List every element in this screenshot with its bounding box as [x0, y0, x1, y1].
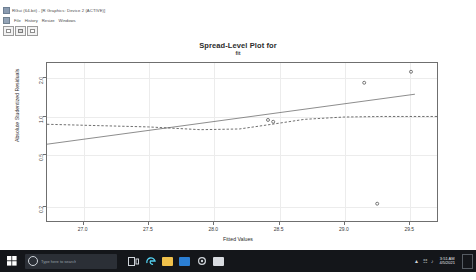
store-icon[interactable] [176, 250, 193, 272]
plot-panel [46, 62, 438, 222]
menu-bar[interactable]: File History Resize Windows [0, 16, 76, 24]
data-point [410, 70, 413, 73]
volume-icon[interactable]: ♪ [431, 259, 434, 264]
chart-subtitle: fit [0, 50, 476, 56]
store-glyph [179, 257, 190, 266]
r-app-icon [3, 7, 10, 14]
menu-item-resize[interactable]: Resize [42, 18, 55, 23]
data-point [376, 202, 379, 205]
x-tick-mark [344, 222, 345, 225]
settings-icon[interactable] [193, 250, 210, 272]
action-center-icon[interactable] [462, 254, 473, 269]
graphics-canvas: Spread-Level Plot for fit 27.027.528.028… [0, 38, 476, 248]
r-glyph [213, 257, 224, 266]
data-series-layer [47, 63, 437, 221]
x-tick-label: 29.0 [339, 226, 349, 232]
x-tick-label: 28.5 [274, 226, 284, 232]
task-view-icon[interactable] [125, 250, 142, 272]
x-tick-label: 27.5 [143, 226, 153, 232]
search-placeholder: Type here to search [41, 259, 76, 264]
data-point [272, 120, 275, 123]
folder-glyph [162, 257, 173, 266]
windows-logo-icon [7, 256, 17, 266]
x-tick-label: 27.0 [78, 226, 88, 232]
window-title: RGui (64-bit) - [R Graphics: Device 2 (A… [12, 8, 105, 13]
data-point [363, 81, 366, 84]
y-tick-label: 0.5 [38, 154, 44, 161]
loess-smooth-line [47, 116, 437, 129]
system-tray[interactable]: ▲ ☷ ♪ 3:51 AM 4/5/2021 [414, 250, 476, 272]
clock-date: 4/5/2021 [439, 261, 455, 265]
clock[interactable]: 3:51 AM 4/5/2021 [437, 257, 457, 266]
r-document-icon [3, 17, 10, 24]
menu-item-file[interactable]: File [14, 18, 21, 23]
data-point [267, 118, 270, 121]
y-axis-ticks: 0.20.51.02.0 [30, 62, 46, 222]
edge-icon[interactable] [142, 250, 159, 272]
x-tick-label: 29.5 [404, 226, 414, 232]
x-tick-mark [148, 222, 149, 225]
chart-title: Spread-Level Plot for [0, 41, 476, 50]
x-tick-mark [279, 222, 280, 225]
menu-item-history[interactable]: History [25, 18, 38, 23]
x-tick-mark [409, 222, 410, 225]
save-button[interactable] [27, 26, 38, 36]
windows-taskbar[interactable]: Type here to search ▲ ☷ ♪ 3:51 AM 4/5/2 [0, 250, 476, 272]
file-explorer-icon[interactable] [159, 250, 176, 272]
desktop: RGui (64-bit) - [R Graphics: Device 2 (A… [0, 0, 476, 280]
search-input[interactable]: Type here to search [25, 254, 117, 269]
linear-fit-line [47, 94, 415, 144]
x-tick-label: 28.0 [208, 226, 218, 232]
cortana-icon [28, 256, 38, 266]
y-axis-label: Absolute Studentized Residuals [14, 69, 20, 142]
rgui-window: RGui (64-bit) - [R Graphics: Device 2 (A… [0, 0, 476, 250]
y-tick-label: 0.2 [38, 206, 44, 213]
y-tick-label: 1.0 [38, 116, 44, 123]
x-tick-mark [83, 222, 84, 225]
y-tick-label: 2.0 [38, 77, 44, 84]
print-button[interactable] [15, 26, 26, 36]
graphics-toolbar[interactable] [3, 26, 38, 36]
menu-item-windows[interactable]: Windows [59, 18, 76, 23]
window-titlebar: RGui (64-bit) - [R Graphics: Device 2 (A… [0, 6, 105, 14]
copy-button[interactable] [3, 26, 14, 36]
network-icon[interactable]: ☷ [423, 259, 427, 264]
x-tick-mark [213, 222, 214, 225]
r-taskbar-icon[interactable] [210, 250, 227, 272]
start-button[interactable] [0, 250, 24, 272]
show-hidden-icons[interactable]: ▲ [414, 259, 419, 264]
x-axis-label: Fitted Values [0, 236, 476, 242]
